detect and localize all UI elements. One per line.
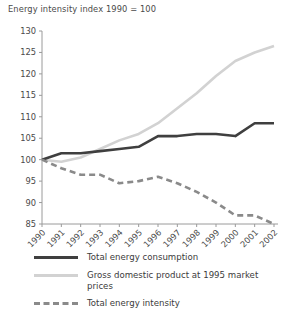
- legend-item-label: Total energy intensity: [87, 298, 180, 309]
- y-axis-tick-label: 130: [20, 26, 36, 36]
- legend-swatch-icon: [34, 270, 78, 282]
- x-axis-tick-label: 1994: [103, 227, 125, 249]
- legend-item[interactable]: Total energy consumption: [34, 252, 286, 264]
- x-axis-tick-label: 2001: [238, 227, 260, 249]
- x-axis-tick-label: 1991: [45, 227, 67, 249]
- series-line: [42, 160, 274, 224]
- y-axis-tick-label: 110: [20, 112, 36, 122]
- x-axis-tick-label: 1995: [122, 227, 144, 249]
- x-axis-tick-label: 1990: [25, 227, 47, 249]
- x-axis-tick-label: 1999: [199, 227, 221, 249]
- y-axis-tick-label: 100: [20, 155, 36, 165]
- series-line: [42, 46, 274, 162]
- x-axis-tick-label: 2002: [257, 227, 279, 249]
- y-axis-tick-label: 125: [20, 47, 36, 57]
- legend-item-label: Gross domestic product at 1995 market pr…: [87, 270, 286, 292]
- chart-plot-area: 8590951001051101151201251301990199119921…: [0, 0, 290, 250]
- x-axis-tick-label: 1996: [141, 227, 163, 249]
- legend-item-label: Total energy consumption: [87, 252, 198, 263]
- x-axis-tick-label: 1998: [180, 227, 202, 249]
- legend-swatch-icon: [34, 298, 78, 310]
- x-axis-tick-label: 2000: [219, 227, 241, 249]
- y-axis-tick-label: 115: [20, 90, 36, 100]
- y-axis-tick-label: 120: [20, 69, 36, 79]
- x-axis-tick-label: 1997: [161, 227, 183, 249]
- y-axis-tick-label: 90: [25, 198, 36, 208]
- legend-swatch-icon: [34, 252, 78, 264]
- energy-intensity-chart: Energy intensity index 1990 = 100 859095…: [0, 0, 290, 325]
- y-axis-tick-label: 105: [20, 133, 36, 143]
- x-axis-tick-label: 1992: [64, 227, 86, 249]
- legend-item[interactable]: Gross domestic product at 1995 market pr…: [34, 270, 286, 292]
- y-axis-tick-label: 85: [25, 219, 36, 229]
- chart-legend: Total energy consumptionGross domestic p…: [34, 252, 286, 316]
- series-line: [42, 123, 274, 159]
- y-axis-tick-label: 95: [25, 176, 36, 186]
- x-axis-tick-label: 1993: [83, 227, 105, 249]
- legend-item[interactable]: Total energy intensity: [34, 298, 286, 310]
